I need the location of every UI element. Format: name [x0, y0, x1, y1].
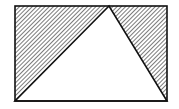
geometry-diagram — [0, 0, 179, 109]
